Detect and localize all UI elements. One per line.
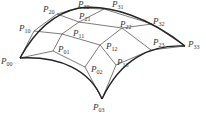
point-label-p10: P10: [18, 23, 31, 34]
point-label-p12: P12: [105, 41, 118, 52]
point-label-p23: P23: [152, 37, 165, 48]
bezier-surface-diagram: P00P10P20P30P01P11P21P31P02P12P22P32P03P…: [0, 0, 206, 128]
point-label-p20: P20: [42, 4, 55, 15]
boundary-curve-2: [102, 46, 185, 99]
point-label-p00: P00: [0, 56, 13, 67]
point-label-p02: P02: [90, 64, 103, 75]
point-label-p11: P11: [72, 28, 84, 39]
point-label-p31: P31: [111, 0, 124, 10]
point-labels: P00P10P20P30P01P11P21P31P02P12P22P32P03P…: [0, 0, 200, 113]
point-label-p30: P30: [77, 0, 90, 10]
point-label-p13: P13: [116, 57, 129, 68]
point-label-p21: P21: [78, 11, 91, 22]
point-label-p32: P32: [152, 16, 165, 27]
point-label-p33: P33: [187, 39, 200, 50]
boundary-curve-3: [20, 58, 102, 99]
point-label-p03: P03: [92, 102, 105, 113]
point-label-p22: P22: [119, 19, 132, 30]
point-label-p01: P01: [57, 44, 70, 55]
